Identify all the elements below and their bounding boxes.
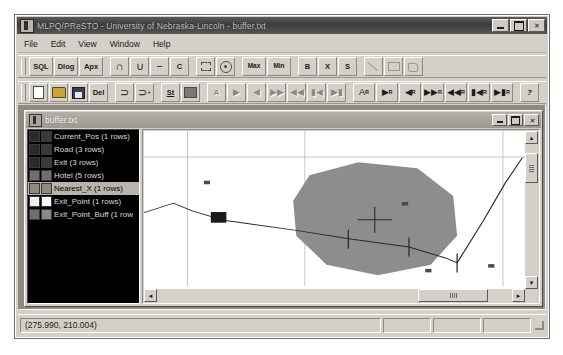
- help-button[interactable]: ?: [520, 83, 539, 102]
- relation-visibility-swatch[interactable]: [29, 196, 40, 207]
- relation-visibility-swatch[interactable]: [29, 144, 40, 155]
- statistics-button[interactable]: St: [161, 83, 180, 102]
- relation-row[interactable]: Exit_Point_Buff (1 row: [28, 208, 139, 221]
- relation-color-swatch[interactable]: [41, 183, 52, 194]
- status-pane-3: [483, 318, 531, 333]
- color-swatch-icon[interactable]: [181, 83, 200, 102]
- scroll-left-icon[interactable]: ◄: [144, 289, 157, 302]
- relation-row[interactable]: Hotel (5 rows): [28, 169, 139, 182]
- difference-button[interactable]: −: [150, 57, 169, 76]
- relation-list[interactable]: Current_Pos (1 rows)Road (3 rows)Exit (3…: [27, 129, 140, 304]
- menu-item-help[interactable]: Help: [147, 38, 176, 50]
- select-area-icon[interactable]: [196, 57, 215, 76]
- resize-grip-icon[interactable]: [533, 319, 545, 331]
- relation-color-swatch[interactable]: [41, 131, 52, 142]
- menu-item-window[interactable]: Window: [104, 38, 146, 50]
- scroll-right-icon[interactable]: ►: [512, 289, 525, 302]
- child-minimize-button[interactable]: [492, 114, 507, 126]
- point-marker: [488, 264, 494, 268]
- relation-visibility-swatch[interactable]: [29, 183, 40, 194]
- skip-start-button[interactable]: ▮◀: [307, 83, 326, 102]
- status-pane-2: [433, 318, 481, 333]
- play-forward-button-glyph: ▶: [233, 88, 240, 97]
- close-button[interactable]: ✕: [528, 19, 545, 32]
- fast-forward-button-glyph: ▶▶: [270, 88, 284, 97]
- relation-color-swatch[interactable]: [41, 157, 52, 168]
- curve-tool-icon[interactable]: ⊃: [115, 83, 134, 102]
- map-vertical-scrollbar[interactable]: ▲ ▼: [525, 131, 538, 289]
- relation-row[interactable]: Exit_Point (1 rows): [28, 195, 139, 208]
- rectangle-tool-icon[interactable]: [384, 57, 403, 76]
- play-forward-button[interactable]: ▶: [227, 83, 246, 102]
- fast-rewind-rel-button[interactable]: ◀◀R: [445, 83, 467, 102]
- polygon-tool-icon[interactable]: [404, 57, 423, 76]
- relation-row[interactable]: Nearest_X (1 rows): [28, 182, 139, 195]
- relation-label: Hotel (5 rows): [54, 172, 104, 180]
- map-panel: ▲ ▼ ◄ ►: [142, 129, 540, 304]
- max-button[interactable]: Max: [242, 57, 266, 76]
- animate-all-button[interactable]: A: [207, 83, 226, 102]
- approximate-button[interactable]: Apx: [79, 57, 103, 76]
- animate-all-rel-button[interactable]: AR: [353, 83, 375, 102]
- menu-item-view[interactable]: View: [72, 38, 102, 50]
- skip-start-rel-button[interactable]: ▮◀R: [468, 83, 490, 102]
- toolbar-grip[interactable]: [21, 58, 26, 75]
- color-swatch: [184, 87, 197, 98]
- file-animation-toolbar: Del⊃⊃+StA▶◀▶▶◀◀▮◀▶▮AR▶R◀R▶▶R◀◀R▮◀R▶▮R?: [18, 81, 546, 104]
- scroll-down-icon[interactable]: ▼: [525, 276, 538, 289]
- map-canvas[interactable]: [144, 131, 525, 289]
- child-close-button[interactable]: ✕: [524, 114, 539, 126]
- relation-visibility-swatch[interactable]: [29, 131, 40, 142]
- shortest-path-button[interactable]: S: [338, 57, 357, 76]
- add-curve-tool-icon[interactable]: ⊃+: [135, 83, 154, 102]
- complement-button[interactable]: C: [170, 57, 189, 76]
- thumb-grip: [450, 293, 457, 298]
- relation-row[interactable]: Exit (3 rows): [28, 156, 139, 169]
- min-button[interactable]: Min: [267, 57, 291, 76]
- menu-item-file[interactable]: File: [18, 38, 44, 50]
- fast-forward-rel-button[interactable]: ▶▶R: [422, 83, 444, 102]
- relation-color-swatch[interactable]: [41, 209, 52, 220]
- application-window: MLPQ/PReSTO - University of Nebraska-Lin…: [14, 14, 550, 339]
- relation-subscript: R: [506, 90, 510, 96]
- horizontal-scroll-thumb[interactable]: [418, 289, 488, 302]
- polygon-glyph: [408, 62, 419, 71]
- fast-rewind-button[interactable]: ◀◀: [287, 83, 306, 102]
- open-file-icon[interactable]: [49, 83, 68, 102]
- delete-button[interactable]: Del: [89, 83, 108, 102]
- relation-row[interactable]: Road (3 rows): [28, 143, 139, 156]
- current-position-marker: [211, 212, 227, 223]
- union-button[interactable]: ∪: [130, 57, 149, 76]
- relation-color-swatch[interactable]: [41, 170, 52, 181]
- play-forward-rel-button[interactable]: ▶R: [376, 83, 398, 102]
- fast-forward-button[interactable]: ▶▶: [267, 83, 286, 102]
- skip-end-rel-button-glyph: ▶▮: [494, 88, 506, 97]
- relation-color-swatch[interactable]: [41, 196, 52, 207]
- buffer-button[interactable]: B: [298, 57, 317, 76]
- play-backward-button[interactable]: ◀: [247, 83, 266, 102]
- skip-end-button[interactable]: ▶▮: [327, 83, 346, 102]
- relation-color-swatch[interactable]: [41, 144, 52, 155]
- relation-row[interactable]: Current_Pos (1 rows): [28, 130, 139, 143]
- child-maximize-button[interactable]: [508, 114, 523, 126]
- scroll-up-icon[interactable]: ▲: [525, 131, 538, 144]
- map-horizontal-scrollbar[interactable]: ◄ ►: [144, 289, 525, 302]
- minimize-button[interactable]: [492, 19, 509, 32]
- point-circle-icon[interactable]: [216, 57, 235, 76]
- maximize-button[interactable]: [510, 19, 527, 32]
- new-file-icon[interactable]: [29, 83, 48, 102]
- datalog-button[interactable]: Dlog: [54, 57, 78, 76]
- sql-button[interactable]: SQL: [29, 57, 53, 76]
- menu-item-edit[interactable]: Edit: [45, 38, 72, 50]
- play-backward-rel-button[interactable]: ◀R: [399, 83, 421, 102]
- skip-end-rel-button[interactable]: ▶▮R: [491, 83, 513, 102]
- relation-visibility-swatch[interactable]: [29, 157, 40, 168]
- line-tool-icon[interactable]: [364, 57, 383, 76]
- relation-visibility-swatch[interactable]: [29, 170, 40, 181]
- vertical-scroll-thumb[interactable]: [525, 153, 538, 183]
- relation-visibility-swatch[interactable]: [29, 209, 40, 220]
- toolbar-grip[interactable]: [21, 84, 26, 101]
- save-file-icon[interactable]: [69, 83, 88, 102]
- intersect-x-button[interactable]: X: [318, 57, 337, 76]
- intersection-button[interactable]: ∩: [110, 57, 129, 76]
